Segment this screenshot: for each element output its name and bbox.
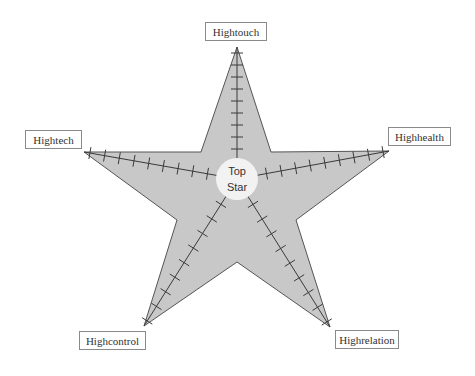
label-hightouch: Hightouch	[205, 22, 267, 41]
center-label-line2: Star	[213, 179, 261, 195]
label-highhealth: Highhealth	[388, 127, 451, 146]
label-hightech: Hightech	[25, 130, 82, 149]
center-label: Top Star	[213, 163, 261, 195]
center-label-line1: Top	[213, 163, 261, 179]
label-highrelation: Highrelation	[335, 330, 399, 349]
label-highcontrol: Highcontrol	[79, 331, 146, 350]
